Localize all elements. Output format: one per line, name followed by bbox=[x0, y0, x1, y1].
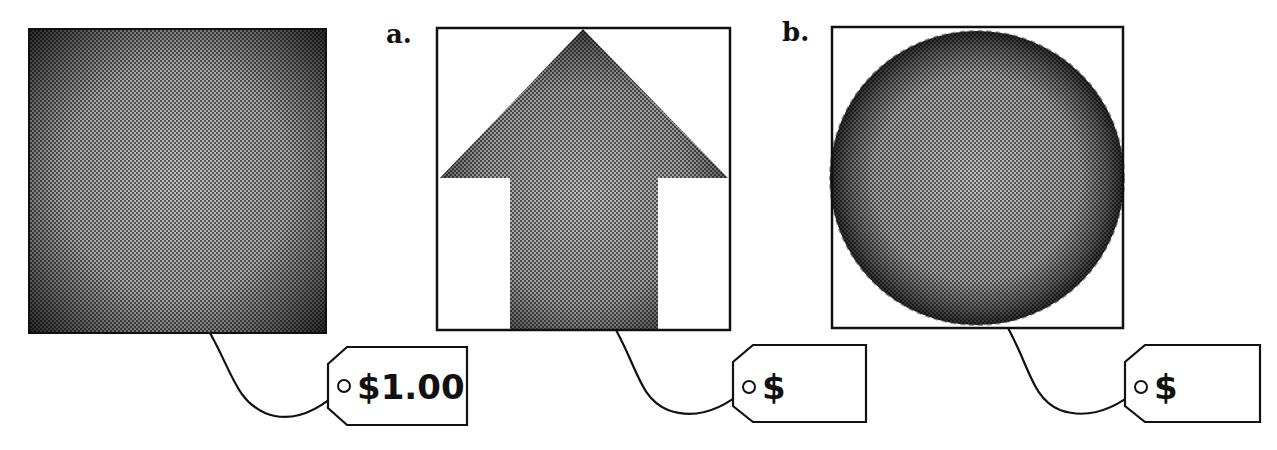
price-text-3: $ bbox=[1154, 370, 1178, 404]
tag-hole bbox=[743, 381, 755, 393]
price-tag-2 bbox=[616, 330, 866, 422]
arrow-panel bbox=[437, 28, 730, 330]
price-tag-3 bbox=[1008, 328, 1260, 422]
panel-label-b: b. bbox=[782, 17, 809, 47]
price-text-1: $1.00 bbox=[357, 370, 465, 404]
figure-canvas bbox=[0, 0, 1277, 450]
tag-hole bbox=[1135, 381, 1147, 393]
circle-panel bbox=[830, 27, 1124, 328]
square-shape bbox=[29, 29, 326, 333]
tag-string bbox=[1008, 328, 1140, 414]
price-text-2: $ bbox=[762, 370, 786, 404]
tag-string bbox=[616, 330, 747, 414]
panel-label-a: a. bbox=[386, 19, 412, 49]
tag-string bbox=[210, 333, 344, 417]
tag-hole bbox=[338, 380, 350, 392]
